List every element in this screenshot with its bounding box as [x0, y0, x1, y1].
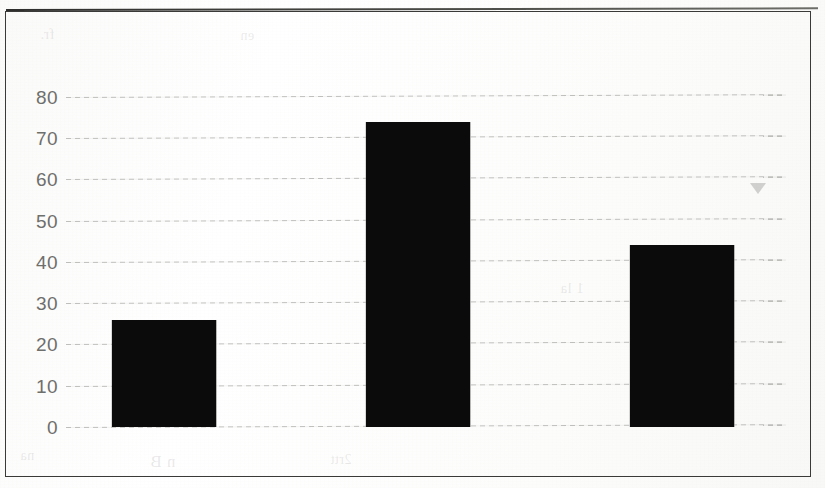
- bar: [366, 122, 470, 427]
- y-axis-tick-label: 80: [12, 88, 58, 107]
- scanned-page: fr. en 1 la l l n B na 2rtt 010203040506…: [0, 0, 825, 488]
- gridline: [66, 94, 786, 98]
- chart-frame: 01020304050607080Myanmar (2012 -2014)Cam…: [5, 11, 811, 477]
- y-axis-tick-label: 70: [12, 129, 58, 148]
- y-axis-tick-label: 0: [12, 418, 58, 437]
- y-axis-tick-label: 60: [12, 170, 58, 189]
- bar: [630, 245, 734, 427]
- bar: [112, 320, 216, 427]
- y-axis-tick-label: 30: [12, 294, 58, 313]
- y-axis-tick-label: 50: [12, 212, 58, 231]
- plot-area: 01020304050607080Myanmar (2012 -2014)Cam…: [66, 72, 786, 427]
- y-axis-tick-label: 20: [12, 335, 58, 354]
- y-axis-tick-label: 40: [12, 253, 58, 272]
- y-axis-tick-label: 10: [12, 377, 58, 396]
